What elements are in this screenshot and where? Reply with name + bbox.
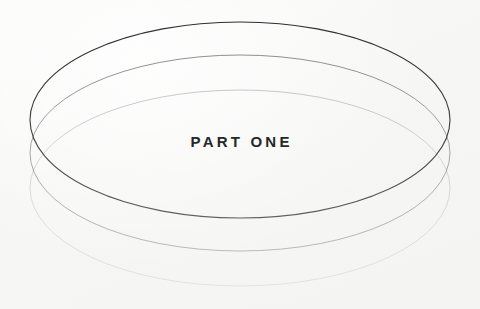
part-title: PART ONE: [0, 133, 480, 151]
stacked-ellipse-artwork: [0, 0, 480, 309]
ellipse-top-ring: [30, 22, 450, 218]
ellipse-middle-ring: [30, 55, 450, 251]
part-divider-page: PART ONE: [0, 0, 480, 309]
ellipse-bottom-ring: [30, 90, 450, 286]
